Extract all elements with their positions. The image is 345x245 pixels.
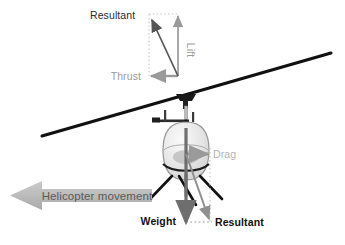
thrust-label: Thrust	[111, 70, 141, 82]
resultant-top-vector-arrow	[152, 20, 178, 76]
helicopter-force-diagram: Resultant Lift Thrust	[0, 0, 345, 245]
top-vector-group: Resultant Lift Thrust	[90, 9, 197, 82]
weight-label: Weight	[141, 215, 177, 227]
helicopter-movement-arrow: Helicopter movement	[10, 181, 153, 210]
resultant-bottom-label: Resultant	[215, 216, 264, 228]
drag-label: Drag	[213, 148, 236, 160]
helicopter-movement-label: Helicopter movement	[42, 190, 153, 202]
lift-label: Lift	[185, 43, 197, 57]
resultant-top-label: Resultant	[90, 9, 135, 21]
diagram-canvas: Resultant Lift Thrust	[0, 0, 345, 245]
